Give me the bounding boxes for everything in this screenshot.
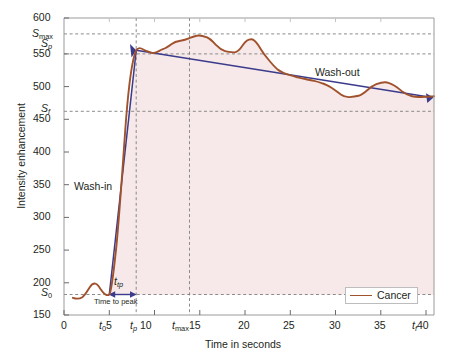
s-0-sub: 0: [48, 291, 52, 300]
y-tick-label-350: 350: [33, 178, 51, 190]
t-max-sub: max: [175, 324, 189, 333]
y-tick-label-400: 400: [33, 145, 51, 157]
t-05-sub: 0: [102, 324, 106, 333]
s-0-label: S0: [41, 286, 52, 298]
x-tick-label-10-num: 10: [140, 319, 152, 331]
wash-out-annotation: Wash-out: [315, 66, 360, 78]
legend-label-cancer: Cancer: [377, 289, 411, 301]
y-tick-label-150: 150: [33, 308, 51, 320]
x-tick-label-15: tmax15: [172, 319, 201, 331]
x-tick-label-25: 25: [283, 319, 295, 331]
y-tick-label-300: 300: [33, 210, 51, 222]
time-to-peak-annotation: Time to peak: [94, 297, 138, 306]
s-f-label: Sf: [41, 102, 50, 114]
y-tick-label-600: 600: [33, 11, 51, 23]
s-f-sub: f: [48, 107, 50, 116]
chart-legend[interactable]: Cancer: [345, 287, 418, 304]
s-0-base: S: [41, 286, 48, 298]
s-p-label: Sp: [41, 37, 52, 49]
x-tick-label-15-num: 15: [189, 319, 201, 331]
t-p-sub: p: [133, 324, 137, 333]
x-tick-label-40: tf40: [412, 319, 429, 331]
x-tick-label-10: tp 10: [130, 319, 152, 331]
s-max-base: S: [32, 27, 39, 39]
intensity-enhancement-line-chart: [0, 0, 450, 359]
y-tick-label-500: 500: [33, 80, 51, 92]
x-tick-label-5: t05: [99, 319, 112, 331]
x-tick-label-30: 30: [329, 319, 341, 331]
s-p-sub: p: [48, 42, 52, 51]
x-tick-label-20: 20: [238, 319, 250, 331]
t-tp-annotation: ttp: [114, 275, 123, 287]
x-tick-label-40-num: 40: [417, 319, 429, 331]
legend-swatch-cancer: [350, 295, 372, 296]
chart-figure: 600 550 500 450 400 350 300 250 200 150 …: [0, 0, 450, 359]
t-tp-sub: tp: [117, 280, 123, 289]
y-axis-title: Intensity enhancement: [15, 91, 27, 221]
x-tick-label-5-num: 5: [106, 319, 112, 331]
y-tick-label-250: 250: [33, 243, 51, 255]
s-p-base: S: [41, 37, 48, 49]
x-axis-title: Time in seconds: [205, 338, 281, 350]
t-f-sub: f: [415, 324, 417, 333]
wash-in-annotation: Wash-in: [74, 180, 112, 192]
s-f-base: S: [41, 102, 48, 114]
x-tick-label-35: 35: [374, 319, 386, 331]
x-tick-label-0: 0: [61, 319, 67, 331]
